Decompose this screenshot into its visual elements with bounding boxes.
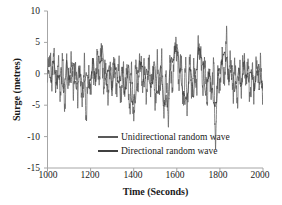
plot-area <box>0 0 282 205</box>
legend-entry-unidirectional: Unidirectional random wave <box>98 132 230 142</box>
chart-figure: Surge (metres) Time (Seconds) 10 5 0 -5 … <box>0 0 282 205</box>
legend-swatch-directional <box>98 150 118 152</box>
legend-label-directional: Directional random wave <box>121 146 218 156</box>
legend-swatch-unidirectional <box>98 136 118 138</box>
data-series-group <box>48 26 264 149</box>
y-tick-marks <box>44 11 48 168</box>
x-tick-marks <box>48 168 264 172</box>
legend-label-unidirectional: Unidirectional random wave <box>121 132 230 142</box>
axis-lines <box>48 11 264 168</box>
legend-entry-directional: Directional random wave <box>98 146 218 156</box>
series-line <box>48 26 264 149</box>
